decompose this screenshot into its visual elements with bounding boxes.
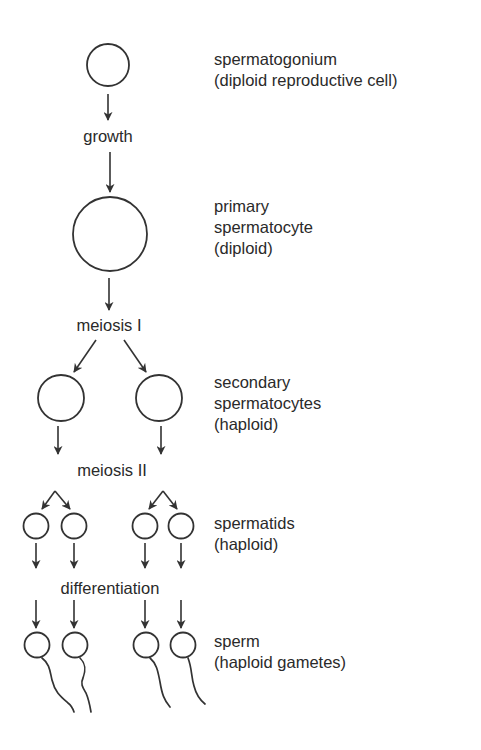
sperm-4 (171, 633, 206, 705)
sperm-2 (63, 633, 92, 713)
spermatid-cell-1 (24, 514, 49, 539)
label-line: spermatocyte (214, 217, 313, 238)
label-line: (diploid reproductive cell) (214, 70, 397, 91)
label-line: secondary (214, 372, 321, 393)
label-secondary-spermatocytes: secondary spermatocytes (haploid) (214, 372, 321, 435)
label-spermatids: spermatids (haploid) (214, 513, 295, 555)
sperm-3 (134, 633, 171, 708)
primary-spermatocyte-cell (73, 197, 147, 271)
label-line: (haploid) (214, 534, 295, 555)
label-line: sperm (214, 631, 346, 652)
secondary-spermatocyte-cell-left (38, 375, 84, 421)
process-differentiation: differentiation (61, 579, 160, 597)
arrow-meiosis2-l1 (42, 491, 55, 509)
label-line: spermatogonium (214, 49, 397, 70)
label-line: (haploid) (214, 414, 321, 435)
label-sperm: sperm (haploid gametes) (214, 631, 346, 673)
label-line: spermatids (214, 513, 295, 534)
arrow-meiosis2-r2 (163, 491, 177, 509)
arrow-meiosis1-right (124, 340, 146, 372)
label-line: (diploid) (214, 238, 313, 259)
spermatid-cell-2 (62, 514, 87, 539)
label-line: primary (214, 196, 313, 217)
label-spermatogonium: spermatogonium (diploid reproductive cel… (214, 49, 397, 91)
spermatid-cell-3 (133, 514, 158, 539)
label-line: spermatocytes (214, 393, 321, 414)
arrow-meiosis2-r1 (149, 491, 163, 509)
arrow-meiosis1-left (74, 340, 96, 372)
arrow-meiosis2-l2 (55, 491, 70, 509)
label-line: (haploid gametes) (214, 652, 346, 673)
label-primary-spermatocyte: primary spermatocyte (diploid) (214, 196, 313, 259)
spermatid-cell-4 (169, 514, 194, 539)
process-meiosis-2: meiosis II (77, 461, 147, 479)
spermatogonium-cell (87, 44, 129, 86)
secondary-spermatocyte-cell-right (136, 375, 182, 421)
process-meiosis-1: meiosis I (76, 316, 141, 334)
process-growth: growth (83, 127, 133, 145)
